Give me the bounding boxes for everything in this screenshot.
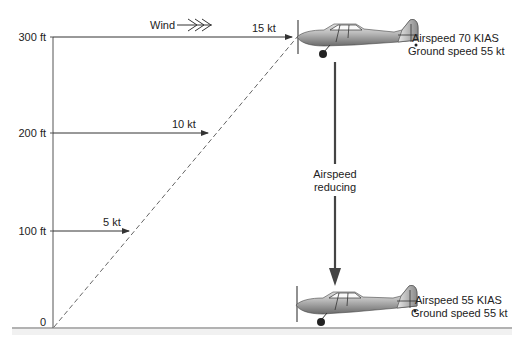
wind-arrow-10kt: 10 kt [53,118,208,133]
tick-label-200ft: 200 ft [18,127,46,139]
tick-label-0: 0 [40,316,46,328]
wind-speed-label: 5 kt [103,216,121,228]
wind-speed-label: 15 kt [252,22,276,34]
top-airspeed-label: Airspeed 70 KIAS [412,32,499,44]
altitude-axis: 300 ft 200 ft 100 ft 0 [18,31,53,328]
wind-indicator: Wind [150,19,212,31]
top-ground-speed-label: Ground speed 55 kt [408,45,505,57]
wind-gradient-diagram: 300 ft 200 ft 100 ft 0 15 kt 10 kt 5 kt … [0,0,516,347]
wind-gradient-line [54,36,298,327]
aircraft-bottom-icon [296,285,417,326]
transition-label-line1: Airspeed [313,168,356,180]
wind-speed-label: 10 kt [172,118,196,130]
airspeed-reducing-arrow: Airspeed reducing [313,62,356,286]
tick-label-300ft: 300 ft [18,31,46,43]
tick-label-100ft: 100 ft [18,225,46,237]
wind-arrow-5kt: 5 kt [53,216,129,231]
wind-label: Wind [150,19,175,31]
bottom-ground-speed-label: Ground speed 55 kt [411,307,508,319]
transition-label-line2: reducing [314,181,356,193]
bottom-airspeed-label: Airspeed 55 KIAS [415,294,502,306]
aircraft-top-icon [297,19,418,58]
ground-line [12,328,512,335]
